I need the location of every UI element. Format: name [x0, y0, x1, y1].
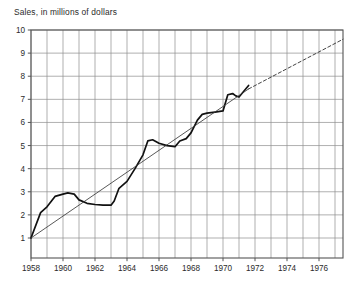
y-tick-label: 5	[20, 142, 25, 151]
plot-area: 10987654321 1958196019621964196619681970…	[0, 0, 352, 287]
x-tick-label: 1966	[150, 264, 169, 273]
y-axis-tick-labels: 10987654321	[16, 26, 26, 243]
y-tick-label: 6	[20, 118, 25, 127]
x-tick-label: 1970	[214, 264, 233, 273]
x-tick-label: 1974	[278, 264, 297, 273]
y-tick-label: 8	[20, 72, 25, 81]
y-tick-label: 1	[20, 234, 25, 243]
x-tick-label: 1962	[86, 264, 105, 273]
x-tick-label: 1972	[246, 264, 265, 273]
sales-line-chart: Sales, in millions of dollars 1098765432…	[0, 0, 352, 287]
x-tick-label: 1976	[310, 264, 329, 273]
y-tick-label: 7	[20, 95, 25, 104]
series-3-line	[249, 39, 343, 89]
series-2-line	[31, 89, 249, 238]
data-series-layer	[31, 39, 343, 238]
x-axis-tick-labels: 1958196019621964196619681970197219741976	[22, 264, 329, 273]
y-tick-label: 9	[20, 49, 25, 58]
y-tick-label: 2	[20, 211, 25, 220]
x-tick-label: 1968	[182, 264, 201, 273]
x-tick-label: 1964	[118, 264, 137, 273]
y-tick-label: 3	[20, 188, 25, 197]
x-tick-label: 1960	[54, 264, 73, 273]
x-tick-label: 1958	[22, 264, 41, 273]
y-tick-label: 10	[16, 26, 26, 35]
y-tick-label: 4	[20, 165, 25, 174]
